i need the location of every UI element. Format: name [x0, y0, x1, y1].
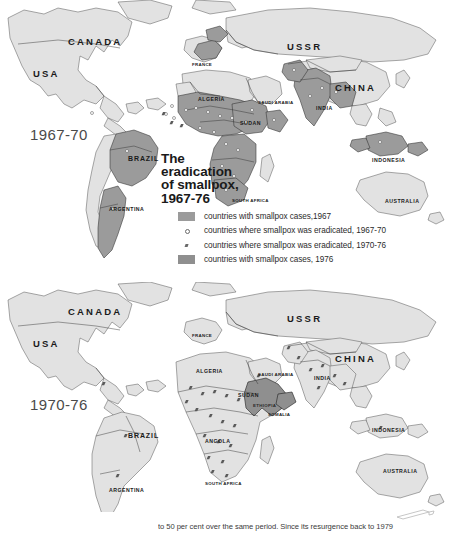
country-label-brazil-2: BRAZIL	[128, 432, 159, 439]
country-label-south-africa-2: SOUTH AFRICA	[205, 481, 242, 486]
era-label-top: 1967-70	[30, 126, 88, 143]
country-label-usa-2: USA	[33, 338, 60, 349]
legend-swatch-eradicated-1967-70-icon	[178, 226, 195, 235]
country-label-ussr: USSR	[287, 41, 322, 52]
legend-swatch-cases-1967-icon	[178, 212, 195, 221]
figure-title: The eradication of smallpox, 1967-76	[161, 152, 253, 205]
legend-item-cases-1976: countries with smallpox cases, 1976	[161, 252, 443, 267]
figure-title-line-4: 1967-76	[161, 192, 253, 205]
country-label-saudi-arabia-2: SAUDI ARABIA	[258, 372, 280, 377]
world-map-1970-76: 1970-76 CANADA USA BRAZIL ARGENTINA USSR…	[0, 282, 453, 512]
country-label-brazil: BRAZIL	[128, 155, 159, 162]
country-label-argentina: ARGENTINA	[109, 206, 144, 212]
smallpox-eradication-figure: 1967-70 CANADA USA BRAZIL ARGENTINA USSR…	[0, 0, 453, 533]
country-label-saudi-arabia: SAUDI ARABIA	[258, 100, 280, 105]
country-label-france: FRANCE	[192, 62, 212, 67]
country-label-china: CHINA	[335, 82, 376, 93]
legend-label-cases-1967: countries with smallpox cases,1967	[204, 212, 331, 221]
country-label-ussr-2: USSR	[287, 313, 322, 324]
country-label-australia-2: AUSTRALIA	[383, 468, 417, 474]
legend-item-eradicated-1970-76: countries where smallpox was eradicated,…	[161, 238, 443, 253]
country-label-sudan-2: SUDAN	[238, 392, 259, 398]
country-label-china-2: CHINA	[335, 353, 376, 364]
country-label-usa: USA	[33, 68, 60, 79]
country-label-france-2: FRANCE	[192, 333, 212, 338]
country-label-algeria-2: ALGERIA	[196, 368, 223, 374]
country-label-indonesia-2: INDONESIA	[372, 427, 405, 433]
legend-item-cases-1967: countries with smallpox cases,1967	[161, 209, 443, 224]
map-legend: countries with smallpox cases,1967 count…	[161, 209, 443, 267]
country-label-ethiopia: ETHIOPIA	[253, 403, 276, 408]
figure-caption: to 50 per cent over the same period. Sin…	[158, 521, 453, 533]
country-label-india: INDIA	[316, 105, 333, 111]
legend-label-cases-1976: countries with smallpox cases, 1976	[204, 255, 333, 264]
country-label-argentina-2: ARGENTINA	[109, 487, 144, 493]
legend-label-eradicated-1970-76: countries where smallpox was eradicated,…	[204, 241, 386, 250]
country-label-india-2: INDIA	[314, 375, 331, 381]
figure-title-line-3: of smallpox,	[161, 178, 253, 191]
country-label-angola: ANGOLA	[205, 438, 230, 444]
legend-swatch-cases-1976-icon	[178, 255, 195, 264]
country-label-somalia: SOMALIA	[268, 412, 290, 417]
country-label-algeria: ALGERIA	[198, 96, 225, 102]
country-label-canada: CANADA	[68, 36, 122, 47]
country-label-sudan: SUDAN	[240, 120, 261, 126]
title-and-legend-block: The eradication of smallpox, 1967-76 cou…	[161, 152, 443, 267]
country-label-canada-2: CANADA	[68, 306, 122, 317]
pencil-decoration-icon	[395, 508, 435, 520]
era-label-bottom: 1970-76	[30, 396, 88, 413]
legend-label-eradicated-1967-70: countries where smallpox was eradicated,…	[204, 226, 386, 235]
legend-item-eradicated-1967-70: countries where smallpox was eradicated,…	[161, 223, 443, 238]
legend-swatch-eradicated-1970-76-icon	[178, 241, 195, 250]
